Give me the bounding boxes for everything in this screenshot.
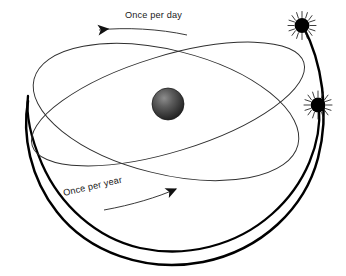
celestial-sphere-arcs xyxy=(26,26,324,265)
revolution-direction-arrow xyxy=(104,189,176,210)
celestial-sphere-arc-outer xyxy=(26,26,324,265)
earth-sphere xyxy=(152,88,184,120)
sun-icon-2 xyxy=(304,91,332,119)
orbit-diagram-svg: Once per day Once per year xyxy=(0,0,346,276)
rotation-direction-arrow xyxy=(99,29,187,35)
diagram-canvas: Once per day Once per year xyxy=(0,0,346,276)
rotation-label: Once per day xyxy=(125,10,182,20)
revolution-label: Once per year xyxy=(62,175,123,198)
sun-icon-1 xyxy=(288,12,316,40)
